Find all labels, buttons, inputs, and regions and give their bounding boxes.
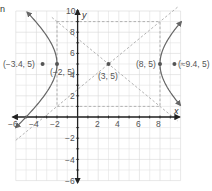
point-label: (≈9.4, 5) [178, 59, 210, 69]
point-marker [55, 62, 59, 66]
point-label: (−3.4, 5) [3, 59, 35, 69]
x-tick-label: 6 [136, 119, 141, 129]
x-tick-label: 8 [156, 119, 161, 129]
hyperbola-graph: −6 −4 −2 2 4 6 8 10 8 6 4 2 −2 −4 −6 y x… [0, 0, 212, 191]
y-axis-label: y [81, 10, 87, 20]
point-label: (8, 5) [136, 59, 156, 69]
point-label: (3, 5) [98, 71, 118, 81]
y-tick-label: −6 [65, 176, 75, 186]
y-tick-label: 2 [70, 91, 75, 101]
point-marker [41, 62, 45, 66]
axes [13, 10, 180, 183]
grid [16, 11, 181, 181]
x-axis-label: x [173, 106, 179, 116]
x-tick-label: −6 [8, 119, 18, 129]
x-tick-label: −4 [29, 119, 39, 129]
y-tick-label: −4 [65, 155, 75, 165]
y-tick-label: −2 [65, 133, 75, 143]
y-tick-label: 6 [70, 48, 75, 58]
point-marker [107, 62, 111, 66]
x-tick-label: −2 [50, 119, 60, 129]
x-tick-label: 4 [115, 119, 120, 129]
x-tick-label: 2 [95, 119, 100, 129]
point-label: (−2, 5) [50, 67, 75, 77]
y-tick-label: 8 [70, 27, 75, 37]
point-marker [172, 62, 176, 66]
y-tick-label: 10 [66, 6, 76, 16]
point-marker [158, 62, 162, 66]
